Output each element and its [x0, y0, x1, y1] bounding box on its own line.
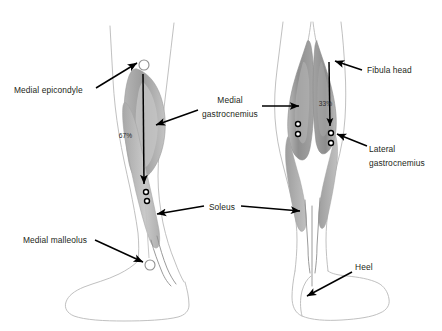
leader-soleus-right — [241, 206, 300, 211]
label-lateral-gastrocnemius-line1: Lateral — [369, 144, 395, 154]
label-soleus: Soleus — [209, 202, 235, 212]
right-achilles-tendon-left — [305, 200, 310, 273]
left-electrode-2 — [145, 199, 150, 204]
left-leg-figure: 67% — [65, 23, 189, 321]
anatomy-diagram-svg: 67% — [0, 0, 442, 331]
label-lateral-gastrocnemius-line2: gastrocnemius — [369, 158, 425, 168]
label-medial-gastrocnemius-line2: gastrocnemius — [202, 109, 258, 119]
label-medial-malleolus: Medial malleolus — [23, 235, 87, 245]
left-leg-anterior-foot-outline — [158, 23, 184, 282]
leader-fibula-head — [335, 61, 362, 70]
label-medial-epicondyle: Medial epicondyle — [14, 85, 83, 95]
right-medial-electrode-2 — [296, 132, 301, 137]
right-lateral-electrode-1 — [329, 131, 334, 136]
left-percent-label: 67% — [119, 132, 132, 139]
leader-soleus-left — [157, 206, 204, 214]
left-foot-outline — [65, 261, 189, 321]
left-achilles-tendon-1 — [157, 236, 176, 284]
right-percent-label: 33% — [319, 100, 332, 107]
leader-medial-malleolus — [95, 240, 143, 262]
right-achilles-tendon-right — [315, 198, 320, 273]
label-medial-gastrocnemius-line1: Medial — [217, 95, 242, 105]
label-heel: Heel — [355, 262, 373, 272]
medial-epicondyle-marker — [139, 60, 149, 70]
right-popliteal-groove — [308, 22, 316, 41]
right-lateral-electrode-2 — [329, 141, 334, 146]
left-measurement-line — [143, 74, 144, 184]
right-heel-contour — [301, 276, 312, 316]
right-measurement-line — [329, 62, 330, 126]
right-medial-electrode-1 — [296, 122, 301, 127]
label-fibula-head: Fibula head — [367, 65, 412, 75]
annotation-labels: Medial epicondyle Medial malleolus Media… — [14, 65, 425, 272]
anatomy-figure: 67% — [0, 0, 442, 331]
medial-malleolus-marker — [145, 260, 155, 270]
left-electrode-1 — [144, 190, 149, 195]
leader-heel — [307, 272, 352, 296]
